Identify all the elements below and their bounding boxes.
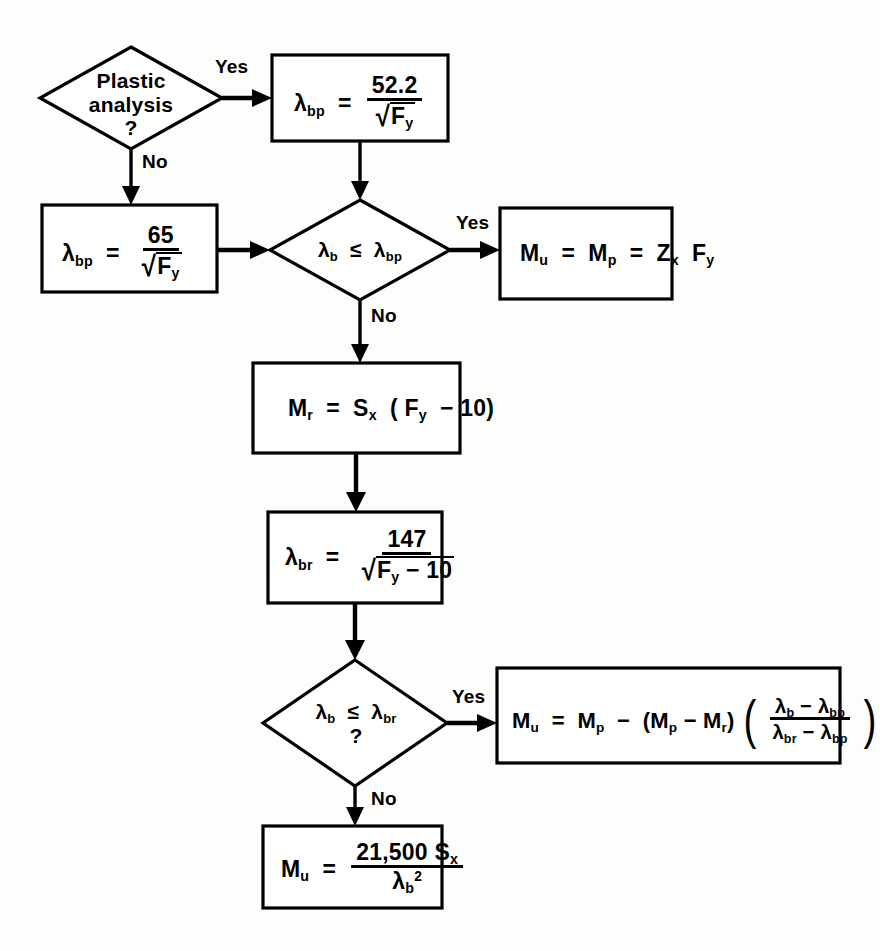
equals-sign: = xyxy=(99,242,126,265)
equals-sign: = xyxy=(545,710,571,732)
lambda-br-symbol: λbr xyxy=(371,700,396,723)
edge-label-no-middle: No xyxy=(371,306,397,325)
equals-sign: = xyxy=(319,546,346,569)
minus-10: − 10) xyxy=(433,395,494,421)
box-mu-mp-zx-fy-label: Mu = Mp = Zx Fy xyxy=(520,242,715,265)
mu-symbol: Mu xyxy=(520,240,548,266)
big-paren-open: ( xyxy=(743,693,756,747)
numerator-65: 65 xyxy=(143,224,179,251)
edge-label-yes-top: Yes xyxy=(215,57,248,76)
fy-symbol: Fy xyxy=(404,395,426,421)
box-lambda-bp-52-2-label: λbp = 52.2 √Fy xyxy=(294,76,424,132)
group-mp-minus-mr: (Mp − Mr) xyxy=(643,710,735,732)
lambda-b-symbol: λb xyxy=(318,238,338,261)
fraction-21500sx-over-lambda-b-squared: 21,500 Sx λb2 xyxy=(351,841,463,893)
edge-label-no-top: No xyxy=(142,152,168,171)
decision-plastic-line2: analysis xyxy=(89,93,174,116)
arrow-mr-to-lbr xyxy=(346,492,366,512)
denominator-sqrt-fy: √Fy xyxy=(135,251,187,280)
denominator-sqrt-fy: √Fy xyxy=(369,101,421,130)
mu-symbol: Mu xyxy=(281,858,309,881)
decision-lb-le-lbr-label: λb ≤ λbr ? xyxy=(296,700,416,747)
less-equal-sign: ≤ xyxy=(341,700,365,723)
big-paren-close: ) xyxy=(863,693,876,747)
arrow-lbp522-to-decision xyxy=(351,181,369,200)
question-mark: ? xyxy=(349,724,362,747)
box-mr-label: Mr = Sx ( Fy − 10) xyxy=(288,397,494,420)
denominator-lambda-b-squared: λb2 xyxy=(387,868,427,893)
lambda-br-symbol: λbr xyxy=(285,546,313,569)
box-lambda-bp-65-label: λbp = 65 √Fy xyxy=(62,226,189,282)
fraction-lambda-interpolation: λb − λbp λbr − λbp xyxy=(767,696,852,742)
decision-plastic-line3: ? xyxy=(124,116,137,139)
fy-symbol: Fy xyxy=(686,240,715,266)
arrow-lbp65-to-decision xyxy=(250,241,270,259)
mp-symbol: Mp xyxy=(588,240,616,266)
arrow-decision-lbr-yes xyxy=(477,714,497,732)
mu-symbol: Mu xyxy=(512,710,539,732)
edge-label-no-bottom: No xyxy=(371,789,397,808)
numerator-52-2: 52.2 xyxy=(367,74,423,101)
decision-lb-le-lbp-label: λb ≤ λbp xyxy=(300,238,420,262)
lambda-bp-symbol: λbp xyxy=(374,238,402,261)
lambda-bp-symbol: λbp xyxy=(294,92,325,115)
arrow-plastic-yes xyxy=(252,89,272,107)
decision-plastic-line1: Plastic xyxy=(96,69,165,92)
denominator-lbr-minus-lbp: λbr − λbp xyxy=(767,720,852,742)
box-mu-elastic-label: Mu = 21,500 Sx λb2 xyxy=(281,843,465,895)
box-mu-interpolation-label: Mu = Mp − (Mp − Mr) ( λb − λbp λbr − λbp… xyxy=(512,694,879,748)
sx-symbol: Sx xyxy=(353,395,377,421)
numerator-lb-minus-lbp: λb − λbp xyxy=(770,696,850,720)
arrow-plastic-no xyxy=(122,186,140,205)
arrow-decision-lbp-yes xyxy=(480,241,500,259)
equals-sign: = xyxy=(316,858,343,881)
denominator-sqrt-fy-minus-10: √Fy − 10 xyxy=(355,555,460,584)
mp-symbol: Mp xyxy=(577,710,604,732)
box-lambda-br-147-label: λbr = 147 √Fy − 10 xyxy=(285,530,461,586)
fraction-147-over-sqrt-fy-minus-10: 147 √Fy − 10 xyxy=(355,528,460,584)
arrow-decision-lbr-no xyxy=(346,807,364,826)
paren-open: ( xyxy=(383,395,397,421)
equals-sign: = xyxy=(331,92,358,115)
less-equal-sign: ≤ xyxy=(344,238,368,261)
fraction-65-over-sqrt-fy: 65 √Fy xyxy=(135,224,187,280)
decision-plastic-analysis-label: Plastic analysis ? xyxy=(61,69,201,140)
numerator-21500-sx: 21,500 Sx xyxy=(351,841,463,868)
arrow-decision-lbp-no xyxy=(351,344,369,363)
numerator-147: 147 xyxy=(382,528,431,555)
minus-sign: − xyxy=(611,710,637,732)
zx-symbol: Zx xyxy=(657,240,679,266)
mr-symbol: Mr xyxy=(288,395,313,421)
edge-label-yes-middle: Yes xyxy=(456,213,489,232)
fraction-52-2-over-sqrt-fy: 52.2 √Fy xyxy=(367,74,423,130)
equals-sign: = xyxy=(320,395,347,421)
lambda-bp-symbol: λbp xyxy=(62,242,93,265)
edge-label-yes-bottom: Yes xyxy=(452,687,485,706)
equals-sign-1: = xyxy=(555,240,582,266)
lambda-b-symbol: λb xyxy=(315,700,335,723)
flowchart-diagram: Plastic analysis ? Yes No λbp = 52.2 √Fy… xyxy=(0,0,880,951)
equals-sign-2: = xyxy=(623,240,650,266)
flowchart-canvas xyxy=(0,0,880,951)
arrow-lbr-to-decision xyxy=(345,640,365,660)
